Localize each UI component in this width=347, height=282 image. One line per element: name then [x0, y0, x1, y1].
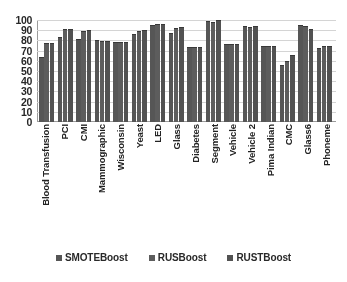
x-label-slot: Vehicle 2 [243, 124, 262, 228]
x-label-slot: Diabetes [187, 124, 206, 228]
bar [155, 24, 160, 122]
bar [272, 46, 277, 123]
x-tick-label: CMI [79, 124, 89, 141]
legend-item[interactable]: RUSTBoost [227, 252, 291, 263]
x-tick-label: Segment [210, 124, 220, 163]
bar [81, 31, 86, 122]
x-tick-label: PCI [60, 124, 70, 140]
x-tick-label: Wisconsin [116, 124, 126, 171]
bar-group [169, 20, 188, 122]
bar-groups [37, 20, 336, 122]
bar [100, 41, 105, 122]
x-label-slot: Blood Transfusion [37, 124, 56, 228]
bar-group [243, 20, 262, 122]
bar [298, 25, 303, 122]
bar-group [76, 20, 95, 122]
x-label-slot: CMC [280, 124, 299, 228]
bar [76, 39, 81, 122]
bar [58, 37, 63, 122]
legend-swatch-icon [56, 255, 62, 261]
bar [303, 26, 308, 122]
x-tick-label: Glass6 [303, 124, 313, 155]
bar [95, 40, 100, 122]
bar-group [224, 20, 243, 122]
x-tick-label: Mammographic [98, 124, 108, 193]
bar [248, 27, 253, 122]
bar-group [261, 20, 280, 122]
bar [179, 27, 184, 122]
bar [253, 26, 258, 122]
bar-chart: 1009080706050403020100 Blood Transfusion… [0, 0, 347, 282]
x-label-slot: Glass6 [299, 124, 318, 228]
bar [285, 61, 290, 122]
bar-group [206, 20, 225, 122]
bar [105, 41, 110, 122]
bar-group [39, 20, 58, 122]
bar [68, 29, 73, 122]
x-label-slot: Wisconsin [112, 124, 131, 228]
x-label-slot: LED [149, 124, 168, 228]
bar-group [132, 20, 151, 122]
x-label-slot: Segment [205, 124, 224, 228]
x-tick-label: Phoneme [322, 124, 332, 166]
x-label-slot: CMI [74, 124, 93, 228]
legend-swatch-icon [227, 255, 233, 261]
legend-item[interactable]: SMOTEBoost [56, 252, 128, 263]
bar-group [150, 20, 169, 122]
y-tick-label: 0 [26, 117, 32, 128]
bar [63, 29, 68, 122]
x-tick-label: Blood Transfusion [42, 124, 52, 206]
bar-group [280, 20, 299, 122]
bar-group [187, 20, 206, 122]
x-label-slot: Mammographic [93, 124, 112, 228]
bar [142, 30, 147, 122]
x-label-slot: Vehicle [224, 124, 243, 228]
x-tick-label: LED [154, 124, 164, 143]
x-tick-label: Pima Indian [266, 124, 276, 176]
x-label-slot: Pima Indian [261, 124, 280, 228]
bar [132, 34, 137, 122]
bar [169, 33, 174, 122]
bar-group [298, 20, 317, 122]
bar-group [113, 20, 132, 122]
bar [309, 29, 314, 122]
bar [280, 65, 285, 122]
bar [87, 30, 92, 122]
x-tick-label: Vehicle 2 [247, 124, 257, 164]
bar [224, 44, 229, 122]
x-label-slot: PCI [56, 124, 75, 228]
x-tick-label: Yeast [135, 124, 145, 148]
bar-group [95, 20, 114, 122]
legend-label: RUSTBoost [236, 252, 291, 263]
bar [39, 57, 44, 122]
x-tick-label: Vehicle [228, 124, 238, 156]
bar [137, 31, 142, 122]
bar-group [317, 20, 336, 122]
x-label-slot: Phoneme [317, 124, 336, 228]
bar [229, 44, 234, 122]
bar [266, 46, 271, 123]
x-label-slot: Yeast [130, 124, 149, 228]
bar [150, 25, 155, 122]
bar [124, 42, 129, 122]
bar [50, 43, 55, 122]
bar [322, 46, 327, 123]
bar [211, 22, 216, 122]
x-tick-label: Glass [172, 124, 182, 149]
legend-swatch-icon [149, 255, 155, 261]
bar [235, 44, 240, 122]
bar [243, 26, 248, 122]
legend-label: SMOTEBoost [65, 252, 128, 263]
legend-item[interactable]: RUSBoost [149, 252, 207, 263]
bar [174, 28, 179, 122]
bar [327, 46, 332, 123]
bar [216, 20, 221, 122]
bar [187, 47, 192, 122]
bar [317, 48, 322, 122]
x-label-slot: Glass [168, 124, 187, 228]
bar [290, 55, 295, 122]
bar [261, 46, 266, 123]
bar [118, 42, 123, 122]
x-tick-label: CMC [285, 124, 295, 145]
legend-label: RUSBoost [158, 252, 207, 263]
